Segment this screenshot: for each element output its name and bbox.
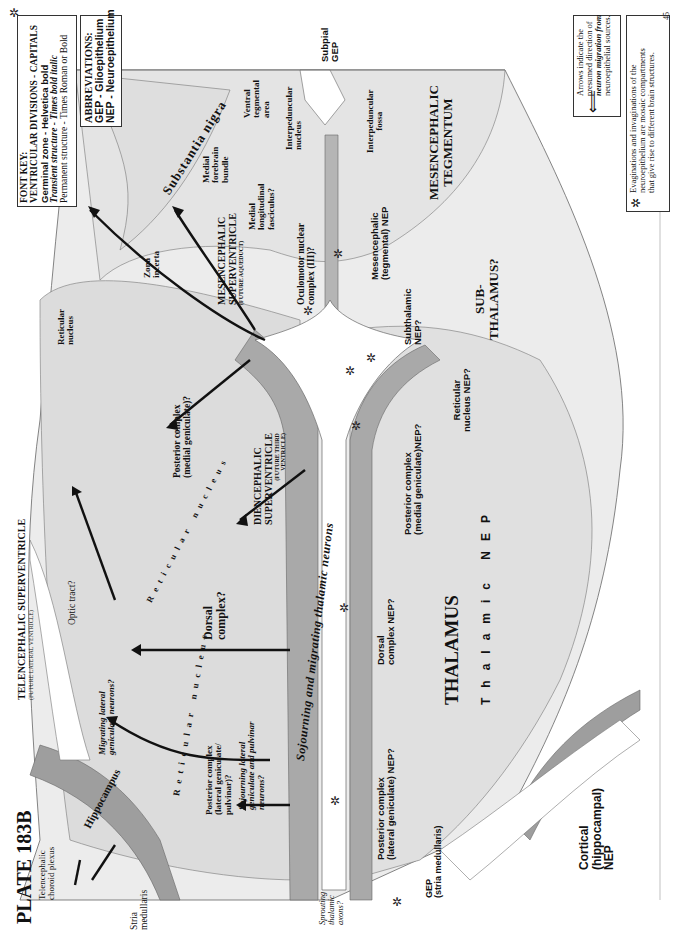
- label-interpeduncular-nucleus: Interpeduncular nucleus: [285, 86, 304, 150]
- font-key-line-permanent: Permanent structure - Times Roman or Bol…: [60, 25, 70, 203]
- svg-text:✲: ✲: [303, 304, 313, 318]
- label-line: pulvinar)?: [224, 743, 233, 815]
- label-reticular-nucleus-top: Reticular nucleus: [57, 309, 76, 345]
- label-migrating-lgn: Migrating lateral geniculate neurons?: [98, 679, 117, 755]
- label-line: nucleus: [294, 86, 303, 150]
- label-cortical-nep: Cortical (hippocampal) NEP: [578, 788, 616, 870]
- page-number: 45: [663, 12, 671, 20]
- label-line: THALAMUS?: [487, 258, 501, 340]
- label-line: incerta: [152, 251, 161, 278]
- arrow-legend-line: neuroepithelial sources.: [603, 15, 612, 96]
- label-subthalamic-nep: Subthalamic NEP?: [403, 289, 423, 346]
- asterisk-legend-line: that give rise to different brain struct…: [647, 48, 656, 193]
- label-line: (FUTURE LATERAL VENTRICLE): [28, 519, 34, 700]
- label-line: area: [262, 80, 271, 118]
- label-posterior-complex-medial-nep: Posterior complex (medial geniculate)NEP…: [403, 424, 423, 535]
- label-line: complex?: [215, 591, 228, 640]
- label-thalamus: THALAMUS: [442, 595, 462, 705]
- label-line: GEP: [330, 28, 340, 62]
- label-line: (medial geniculate)NEP?: [413, 424, 423, 535]
- plate-title: PLATE 183B: [14, 810, 35, 924]
- label-oculomotor-complex: Oculomotor nuclear complex (III)?: [297, 223, 317, 305]
- label-mesencephalic-nep: Mesencephalic (tegmental) NEP: [370, 207, 390, 280]
- label-mesencephalic-tegmentum: MESENCEPHALIC TEGMENTUM: [427, 85, 454, 200]
- label-dorsal-complex-nep: Dorsal complex NEP?: [376, 598, 396, 665]
- label-line: SUB-: [473, 258, 487, 340]
- label-line: MESENCEPHALIC: [217, 213, 228, 305]
- label-gep-stria: GEP (stria medullaris): [425, 825, 444, 898]
- label-line: axons?: [336, 892, 345, 925]
- label-line: medullaris: [140, 890, 150, 930]
- label-subpial-gep: Subpial GEP: [320, 28, 340, 62]
- label-optic-tract: Optic tract?: [68, 580, 78, 625]
- label-choroid-plexus: Telencephalic choroid plexus: [38, 847, 57, 900]
- label-medial-forebrain-bundle: Medial forebrain bundle: [202, 147, 230, 183]
- label-sprouting-axons: Sprouting thalamic axons?: [318, 892, 345, 925]
- label-line: (tegmental) NEP: [380, 207, 390, 280]
- label-zona-incerta: Zona incerta: [143, 251, 162, 278]
- label-line: complex NEP?: [386, 598, 396, 665]
- label-mesencephalic-superventricle: MESENCEPHALIC SUPERVENTRICLE (FUTURE AQU…: [217, 213, 244, 305]
- label-posterior-complex-lateral: Posterior complex (lateral geniculate/ p…: [205, 743, 233, 815]
- label-line: NEP?: [413, 289, 423, 346]
- label-line: Dorsal: [202, 591, 215, 640]
- label-line: geniculate neurons?: [107, 679, 116, 755]
- label-line: MESENCEPHALIC: [427, 85, 441, 200]
- arrow-icon: ⟸: [585, 90, 602, 113]
- label-line: TEGMENTUM: [441, 85, 455, 200]
- svg-text:✲: ✲: [330, 794, 340, 808]
- label-line: complex (III)?: [307, 223, 317, 305]
- label-line: VENTRICLE): [280, 433, 286, 525]
- abbrev-nep: NEP - Neuroepithelium: [105, 9, 116, 123]
- label-line: (lateral geniculate) NEP?: [386, 748, 396, 860]
- svg-text:✲: ✲: [392, 895, 402, 909]
- label-posterior-complex-medial: Posterior complex (medial geniculate)?: [173, 396, 193, 478]
- label-line: nucleus NEP?: [462, 368, 472, 432]
- label-line: NEP: [603, 788, 616, 870]
- label-thalamic-nep: Thalamic NEP: [480, 505, 493, 705]
- svg-text:✲: ✲: [351, 419, 361, 433]
- label-line: (FUTURE AQUEDUCT): [238, 213, 244, 305]
- label-stria-medullaris: Stria medullaris: [130, 890, 150, 930]
- asterisk-legend: Evaginations and invaginations of the ne…: [629, 48, 656, 193]
- svg-text:✲: ✲: [333, 247, 343, 261]
- label-line: nucleus: [66, 309, 75, 345]
- font-key: FONT KEY: VENTRICULAR DIVISIONS - CAPITA…: [20, 25, 70, 203]
- arrow-legend: Arrows indicate the presumed direction o…: [576, 15, 612, 96]
- label-sojourning-lgn: Sojourning lateral geniculate and pulvin…: [238, 721, 266, 810]
- label-dorsal-complex: Dorsal complex?: [202, 591, 227, 640]
- plate-diagram: ✲ ✲ ✲ ✲ ✲ ✲ ✲ ✲ ✲ FONT KEY: VENTRICULAR …: [0, 0, 675, 938]
- label-reticular-nucleus-nep: Reticular nucleus NEP?: [452, 368, 472, 432]
- label-line: fossa: [375, 89, 384, 153]
- abbreviations: ABBREVIATIONS: GEP - Glioepithelium NEP …: [83, 9, 116, 123]
- asterisk-icon: ✲: [630, 198, 643, 208]
- label-line: TELENCEPHALIC SUPERVENTRICLE: [17, 519, 28, 700]
- label-line: choroid plexus: [47, 847, 56, 900]
- label-interpeduncular-fossa: Interpeduncular fossa: [366, 89, 385, 153]
- label-line: SUPERVENTRICLE: [228, 213, 239, 305]
- label-mlf: Medial longitudinal fasciculus?: [248, 183, 276, 230]
- label-ventral-tegmental-area: Ventral tegmental area: [243, 80, 271, 118]
- label-posterior-complex-lateral-nep: Posterior complex (lateral geniculate) N…: [376, 748, 396, 860]
- label-line: fasciculus?: [267, 183, 276, 230]
- label-line: (stria medullaris): [434, 825, 443, 898]
- label-line: bundle: [221, 147, 230, 183]
- label-line: Cortical: [578, 788, 591, 870]
- label-line: neurons?: [257, 721, 266, 810]
- label-subthalamus: SUB- THALAMUS?: [473, 258, 500, 340]
- svg-text:✲: ✲: [345, 364, 355, 378]
- svg-text:✲: ✲: [339, 601, 349, 615]
- label-line: DIENCEPHALIC: [253, 433, 264, 525]
- label-line: SUPERVENTRICLE: [264, 433, 275, 525]
- svg-text:✲: ✲: [366, 351, 376, 365]
- label-diencephalic-superventricle: DIENCEPHALIC SUPERVENTRICLE (FUTURE THIR…: [253, 433, 287, 525]
- label-telencephalic-superventricle: TELENCEPHALIC SUPERVENTRICLE (FUTURE LAT…: [17, 519, 34, 700]
- label-line: (medial geniculate)?: [183, 396, 193, 478]
